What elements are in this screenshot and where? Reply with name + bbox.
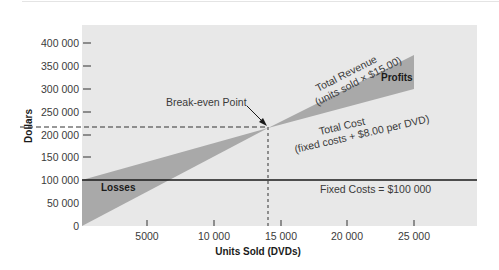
- x-tick-10000: 10 000: [198, 230, 230, 242]
- x-tick-5000: 5000: [135, 230, 159, 242]
- y-tick-200000: 200 000: [41, 129, 79, 141]
- x-axis-labels: 5000 10 000 15 000 20 000 25 000: [135, 230, 430, 242]
- x-axis-title: Units Sold (DVDs): [215, 246, 301, 257]
- break-even-chart: 400 000 350 000 300 000 250 000 200 000 …: [0, 0, 499, 270]
- y-tick-400000: 400 000: [41, 37, 79, 49]
- x-tick-25000: 25 000: [398, 230, 430, 242]
- losses-label: Losses: [101, 182, 136, 193]
- y-tick-100000: 100 000: [41, 174, 79, 186]
- y-tick-250000: 250 000: [41, 106, 79, 118]
- y-axis-labels: 400 000 350 000 300 000 250 000 200 000 …: [41, 37, 79, 232]
- fixed-costs-label: Fixed Costs = $100 000: [320, 183, 431, 195]
- y-axis-title: Dollars: [23, 109, 34, 143]
- y-tick-0: 0: [73, 220, 79, 232]
- y-tick-150000: 150 000: [41, 151, 79, 163]
- y-tick-350000: 350 000: [41, 60, 79, 72]
- y-tick-50000: 50 000: [47, 197, 79, 209]
- break-even-label: Break-even Point: [166, 96, 247, 108]
- y-tick-300000: 300 000: [41, 83, 79, 95]
- x-tick-20000: 20 000: [331, 230, 363, 242]
- x-tick-15000: 15 000: [265, 230, 297, 242]
- profits-label: Profits: [381, 72, 413, 83]
